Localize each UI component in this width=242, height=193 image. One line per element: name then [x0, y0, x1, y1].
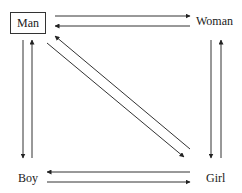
node-man-label: Man	[17, 16, 39, 30]
node-woman: Woman	[196, 15, 233, 27]
node-boy-label: Boy	[18, 171, 38, 185]
node-woman-label: Woman	[196, 14, 233, 28]
edge-man-to-girl	[47, 43, 184, 157]
node-girl-label: Girl	[206, 171, 225, 185]
edge-girl-to-man	[55, 36, 190, 149]
node-girl: Girl	[206, 172, 225, 184]
node-boy: Boy	[18, 172, 38, 184]
node-man: Man	[10, 12, 46, 34]
